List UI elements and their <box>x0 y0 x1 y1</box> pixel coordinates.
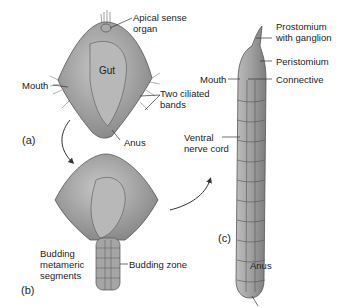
label-ventral-nerve-cord: Ventral nerve cord <box>184 132 229 154</box>
segmented-worm <box>236 26 266 298</box>
label-connective: Connective <box>276 74 324 85</box>
label-anus-c: Anus <box>250 260 272 271</box>
label-peristomium: Peristomium <box>276 56 329 67</box>
label-budding-zone: Budding zone <box>129 259 187 270</box>
label-mouth-a: Mouth <box>22 80 48 91</box>
label-gut: Gut <box>99 65 115 76</box>
label-budding-metameric-segments: Budding metameric segments <box>40 248 84 281</box>
diagram-stage: Apical sense organ Gut Mouth Two ciliate… <box>0 0 353 308</box>
panel-label-c: (c) <box>218 232 231 244</box>
label-prostomium-with-ganglion: Prostomium with ganglion <box>276 21 331 43</box>
label-mouth-c: Mouth <box>200 74 226 85</box>
arrow-b-to-c <box>170 180 210 210</box>
panel-label-a: (a) <box>22 134 35 146</box>
arrow-a-to-b <box>62 120 72 162</box>
label-two-ciliated-bands: Two ciliated bands <box>160 88 210 110</box>
label-anus-a: Anus <box>124 137 146 148</box>
label-apical-sense-organ: Apical sense organ <box>133 12 187 34</box>
panel-label-b: (b) <box>21 284 34 296</box>
